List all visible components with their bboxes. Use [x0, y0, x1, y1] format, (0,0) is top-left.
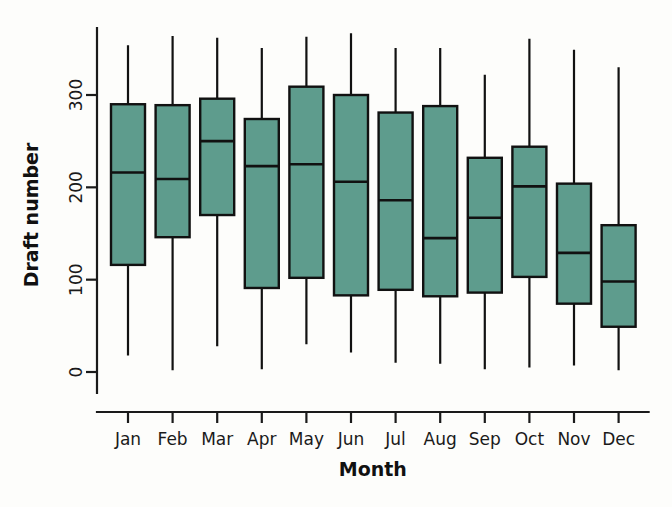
box-rect: [334, 95, 368, 295]
box-aug: [423, 48, 457, 364]
box-mar: [200, 38, 234, 346]
y-tick-label: 100: [66, 263, 86, 295]
x-tick-label: Jun: [337, 429, 365, 449]
x-tick-label: Aug: [424, 429, 457, 449]
box-rect: [423, 106, 457, 296]
x-tick-label: Jul: [384, 429, 406, 449]
plot-canvas: 0100200300JanFebMarAprMayJunJulAugSepOct…: [0, 0, 672, 507]
y-tick-label: 0: [66, 367, 86, 378]
x-tick-label: Feb: [158, 429, 188, 449]
box-apr: [245, 48, 279, 369]
box-jun: [334, 33, 368, 352]
box-rect: [245, 119, 279, 288]
box-feb: [156, 36, 190, 370]
box-rect: [468, 158, 502, 293]
boxplot-figure: 0100200300JanFebMarAprMayJunJulAugSepOct…: [0, 0, 672, 507]
x-tick-label: May: [289, 429, 324, 449]
box-rect: [557, 184, 591, 304]
box-sep: [468, 75, 502, 370]
box-rect: [289, 87, 323, 278]
x-tick-label: Sep: [469, 429, 501, 449]
box-dec: [602, 67, 636, 370]
box-jul: [379, 48, 413, 363]
x-tick-label: Mar: [201, 429, 233, 449]
y-axis-title: Draft number: [20, 142, 42, 287]
box-nov: [557, 50, 591, 366]
x-tick-label: Jan: [114, 429, 141, 449]
x-axis-title: Month: [339, 458, 407, 480]
x-tick-label: Apr: [247, 429, 276, 449]
x-tick-label: Oct: [515, 429, 545, 449]
x-tick-label: Nov: [557, 429, 590, 449]
x-tick-label: Dec: [602, 429, 635, 449]
box-oct: [512, 39, 546, 368]
y-tick-label: 200: [66, 171, 86, 203]
box-rect: [602, 225, 636, 327]
box-may: [289, 37, 323, 344]
box-rect: [200, 99, 234, 215]
y-tick-label: 300: [66, 79, 86, 111]
boxplot-series: [111, 33, 636, 370]
box-jan: [111, 45, 145, 355]
box-rect: [156, 105, 190, 237]
box-rect: [512, 147, 546, 277]
box-rect: [111, 104, 145, 265]
